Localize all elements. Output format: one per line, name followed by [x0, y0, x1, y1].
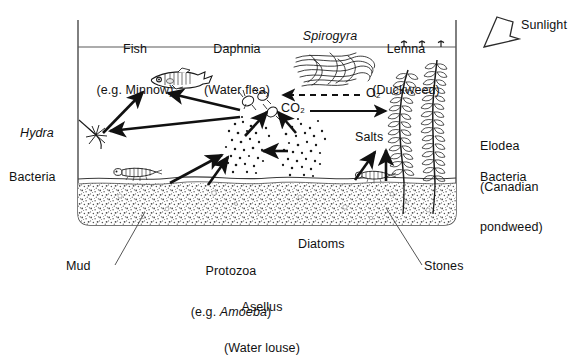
label-lemna: Lemna (Duckweed): [360, 16, 452, 124]
label-mud: Mud: [66, 260, 91, 274]
label-asellus: Asellus (Water louse): [202, 274, 322, 359]
label-asellus-line1: Asellus: [202, 301, 322, 315]
label-fish-line1: Fish: [90, 43, 180, 57]
label-fish: Fish (e.g. Minnow): [90, 16, 180, 124]
label-daphnia-line1: Daphnia: [190, 43, 284, 57]
label-lemna-line1: Lemna: [360, 43, 452, 57]
label-elodea-line1: Elodea: [480, 140, 572, 154]
label-hydra: Hydra: [20, 127, 54, 141]
label-diatoms: Diatoms: [298, 238, 345, 252]
hydra-tentacles: [86, 125, 107, 144]
label-salts: Salts: [355, 131, 383, 145]
label-daphnia: Daphnia (Water flea): [190, 16, 284, 124]
label-sunlight: Sunlight: [521, 19, 567, 33]
mud-gravel-bed: [78, 177, 456, 228]
label-bacteria-right: Bacteria: [480, 171, 527, 185]
label-spirogyra: Spirogyra: [292, 30, 368, 44]
hydra-organism: [79, 120, 107, 149]
label-carbon-dioxide: CO₂: [281, 102, 305, 116]
label-elodea: Elodea (Canadian pondweed): [480, 113, 572, 262]
label-asellus-line2: (Water louse): [202, 342, 322, 356]
protozoa-cluster: [225, 116, 270, 174]
label-elodea-line3: pondweed): [480, 221, 572, 235]
label-daphnia-line2: (Water flea): [190, 84, 284, 98]
label-oxygen: O₂: [366, 87, 381, 101]
asellus-legs-right: [367, 179, 381, 183]
diatom-cluster: [282, 118, 326, 177]
label-fish-line2: (e.g. Minnow): [90, 84, 180, 98]
arrow-asellus-to-protozoa-1: [170, 155, 222, 183]
sunlight-arrow-icon: [484, 17, 519, 47]
label-stones: Stones: [424, 260, 464, 274]
label-bacteria-left: Bacteria: [9, 171, 56, 185]
